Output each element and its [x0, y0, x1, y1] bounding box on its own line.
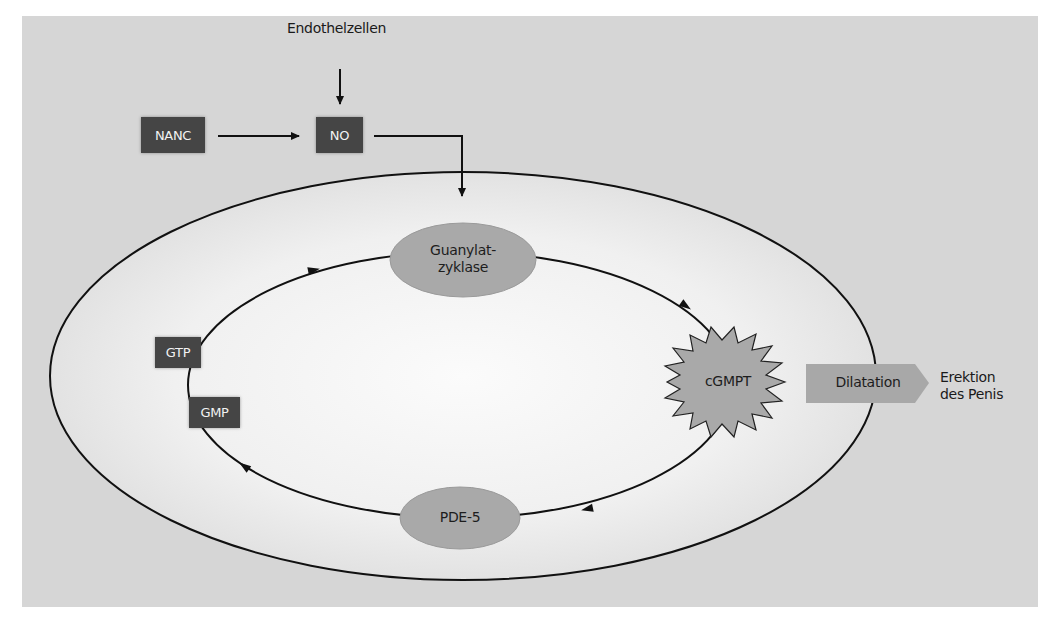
pde5-node-label: PDE-5 — [420, 509, 500, 526]
gtp-node: GTP — [155, 337, 201, 368]
pathway-diagram — [0, 0, 1056, 625]
erektion-label-line2: des Penis — [940, 386, 1003, 403]
gmp-node: GMP — [189, 397, 240, 428]
cgmpt-node-label: cGMPT — [688, 373, 768, 390]
guanylatzyklase-label-line2: zyklase — [413, 259, 513, 276]
erektion-label-line1: Erektion — [940, 369, 1003, 386]
nanc-node: NANC — [141, 117, 205, 153]
erektion-des-penis-label: Erektion des Penis — [940, 369, 1003, 403]
endothelzellen-label: Endothelzellen — [287, 20, 386, 36]
guanylatzyklase-label-line1: Guanylat- — [413, 242, 513, 259]
dilatation-label: Dilatation — [818, 374, 918, 391]
guanylatzyklase-node-label: Guanylat- zyklase — [413, 242, 513, 276]
no-node: NO — [316, 117, 363, 153]
